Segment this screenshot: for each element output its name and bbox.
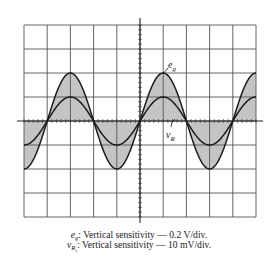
caption-vr-text: : Vertical sensitivity — 10 mV/div. (77, 239, 211, 250)
oscilloscope-screen: eg vR (0, 0, 270, 258)
vr-label: vR (166, 129, 175, 143)
eg-label: eg (168, 59, 176, 73)
caption-vr-sensitivity: vRs: Vertical sensitivity — 10 mV/div. (0, 240, 270, 251)
